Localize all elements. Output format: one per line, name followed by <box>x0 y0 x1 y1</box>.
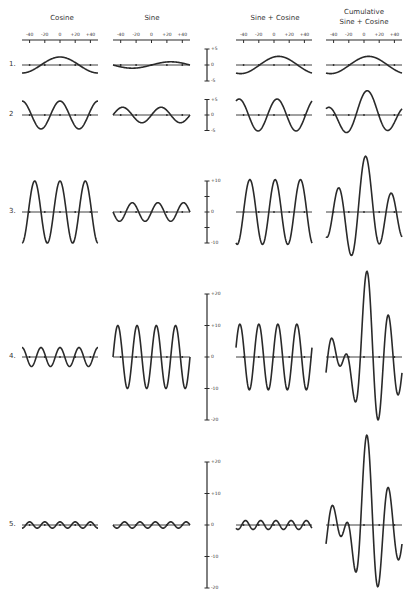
baseline-tick <box>258 114 260 116</box>
baseline-tick <box>304 524 306 526</box>
baseline-tick <box>378 524 380 526</box>
cumulative-curve-row-4 <box>326 271 402 420</box>
baseline-tick <box>181 114 183 116</box>
baseline-tick <box>333 356 335 358</box>
baseline-tick <box>120 356 122 358</box>
baseline-tick <box>135 211 137 213</box>
baseline-tick <box>304 356 306 358</box>
baseline-tick <box>166 211 168 213</box>
baseline-tick <box>363 356 365 358</box>
baseline-tick <box>29 356 31 358</box>
baseline-tick <box>304 211 306 213</box>
baseline-tick <box>288 356 290 358</box>
baseline-tick <box>333 64 335 66</box>
baseline-tick <box>44 64 46 66</box>
baseline-tick <box>378 64 380 66</box>
baseline-tick <box>378 211 380 213</box>
baseline-tick <box>394 114 396 116</box>
baseline-tick <box>181 211 183 213</box>
baseline-tick <box>348 114 350 116</box>
baseline-tick <box>394 211 396 213</box>
baseline-tick <box>243 64 245 66</box>
baseline-tick <box>135 114 137 116</box>
baseline-tick <box>135 64 137 66</box>
baseline-tick <box>363 114 365 116</box>
baseline-tick <box>120 211 122 213</box>
baseline-tick <box>59 114 61 116</box>
baseline-tick <box>166 356 168 358</box>
baseline-tick <box>74 114 76 116</box>
cumulative-curve-row-2 <box>326 91 402 133</box>
baseline-tick <box>44 524 46 526</box>
baseline-tick <box>273 524 275 526</box>
baseline-tick <box>378 356 380 358</box>
baseline-tick <box>288 524 290 526</box>
baseline-tick <box>120 64 122 66</box>
baseline-tick <box>74 211 76 213</box>
baseline-tick <box>258 356 260 358</box>
baseline-tick <box>59 64 61 66</box>
baseline-tick <box>181 356 183 358</box>
baseline-tick <box>44 211 46 213</box>
baseline-tick <box>74 64 76 66</box>
baseline-tick <box>304 64 306 66</box>
baseline-tick <box>363 64 365 66</box>
baseline-tick <box>29 114 31 116</box>
cumulative-curve-row-5 <box>326 435 402 586</box>
baseline-tick <box>166 64 168 66</box>
baseline-tick <box>273 64 275 66</box>
baseline-tick <box>288 211 290 213</box>
baseline-tick <box>90 524 92 526</box>
baseline-tick <box>181 64 183 66</box>
baseline-tick <box>135 356 137 358</box>
baseline-tick <box>29 64 31 66</box>
baseline-tick <box>90 356 92 358</box>
baseline-tick <box>273 114 275 116</box>
baseline-tick <box>120 114 122 116</box>
baseline-tick <box>74 524 76 526</box>
baseline-tick <box>258 524 260 526</box>
cumulative-curve-row-3 <box>326 156 402 255</box>
baseline-tick <box>258 211 260 213</box>
baseline-tick <box>90 114 92 116</box>
baseline-tick <box>288 64 290 66</box>
baseline-tick <box>363 524 365 526</box>
baseline-tick <box>166 114 168 116</box>
baseline-tick <box>394 64 396 66</box>
baseline-tick <box>59 524 61 526</box>
baseline-tick <box>333 114 335 116</box>
baseline-tick <box>243 524 245 526</box>
baseline-tick <box>59 356 61 358</box>
baseline-tick <box>333 524 335 526</box>
baseline-tick <box>44 114 46 116</box>
baseline-tick <box>59 211 61 213</box>
baseline-tick <box>273 211 275 213</box>
waveform-diagram <box>0 0 413 601</box>
baseline-tick <box>348 211 350 213</box>
baseline-tick <box>243 114 245 116</box>
baseline-tick <box>363 211 365 213</box>
baseline-tick <box>288 114 290 116</box>
baseline-tick <box>90 64 92 66</box>
baseline-tick <box>29 524 31 526</box>
